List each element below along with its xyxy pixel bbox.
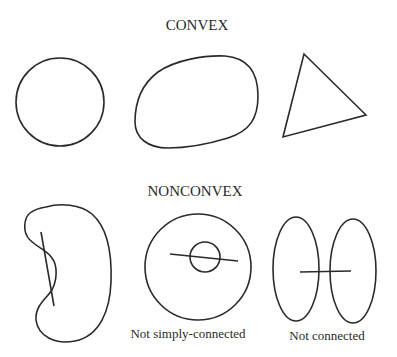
ellipses-chord: [300, 271, 351, 272]
left-ellipse: [273, 217, 319, 321]
convex-rounded-blob: [135, 56, 258, 148]
convex-figures: [16, 54, 366, 148]
kidney-outline: [25, 205, 111, 342]
two-ellipses-figure: Not connected: [273, 217, 376, 343]
convex-triangle: [283, 54, 366, 137]
annulus-chord: [170, 254, 238, 261]
not-connected-caption: Not connected: [289, 328, 365, 343]
not-simply-connected-caption: Not simply-connected: [130, 326, 246, 341]
annulus-figure: Not simply-connected: [130, 214, 251, 341]
convexity-diagram: CONVEX NONCONVEX Not simply-connected No…: [0, 0, 397, 357]
nonconvex-heading: NONCONVEX: [148, 183, 243, 199]
kidney-figure: [25, 205, 111, 342]
convex-heading: CONVEX: [166, 17, 229, 33]
convex-circle: [16, 58, 104, 146]
annulus-outer-circle: [145, 214, 251, 320]
